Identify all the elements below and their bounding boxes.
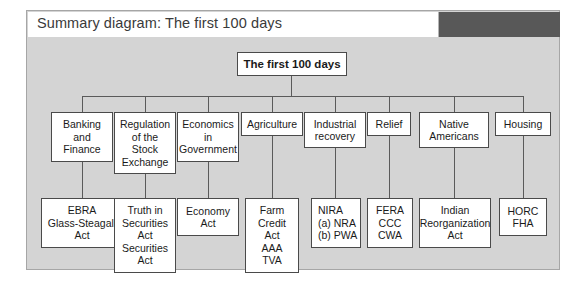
connector-drop-2 [145,96,146,112]
connector-branch-5 [335,148,336,198]
connector-drop-1 [82,96,83,112]
node-category-regulation-stock-exchange: Regulation of the Stock Exchange [114,112,176,174]
connector-branch-3 [208,162,209,198]
connector-branch-6 [389,136,390,198]
connector-branch-4 [272,136,273,198]
diagram-title-bar: Summary diagram: The first 100 days [27,11,561,38]
connector-branch-8 [523,136,524,198]
connector-drop-7 [454,96,455,112]
node-measures-banking-and-finance: EBRA Glass-Steagall Act [41,198,123,248]
connector-drop-8 [523,96,524,112]
page-title: Summary diagram: The first 100 days [37,15,282,31]
connector-drop-6 [389,96,390,112]
node-category-agriculture: Agriculture [241,112,303,136]
title-accent-block [439,12,560,37]
node-category-native-americans: Native Americans [419,112,489,148]
node-category-housing: Housing [495,112,551,136]
node-category-economics-in-government: Economics in Government [177,112,239,162]
connector-branch-2 [145,174,146,198]
diagram-frame: Summary diagram: The first 100 days The … [26,10,560,270]
node-measures-agriculture: Farm Credit Act AAA TVA [245,198,299,273]
node-category-industrial-recovery: Industrial recovery [304,112,366,148]
node-category-banking-and-finance: Banking and Finance [51,112,113,162]
connector-drop-3 [208,96,209,112]
node-measures-housing: HORC FHA [499,198,547,236]
connector-root-stem [291,76,292,96]
connector-bus [82,96,523,97]
diagram-canvas: The first 100 days Banking and Finance R… [27,38,561,271]
node-category-relief: Relief [367,112,411,136]
connector-branch-1 [82,162,83,198]
connector-drop-5 [335,96,336,112]
node-root: The first 100 days [237,52,347,76]
connector-branch-7 [454,148,455,198]
node-measures-native-americans: Indian Reorganization Act [419,198,491,248]
node-measures-regulation-stock-exchange: Truth in Securities Act Securities Act [114,198,176,273]
node-measures-industrial-recovery: NIRA (a) NRA (b) PWA [311,198,361,248]
node-measures-relief: FERA CCC CWA [367,198,413,248]
node-measures-economics-in-government: Economy Act [177,198,239,236]
connector-drop-4 [272,96,273,112]
